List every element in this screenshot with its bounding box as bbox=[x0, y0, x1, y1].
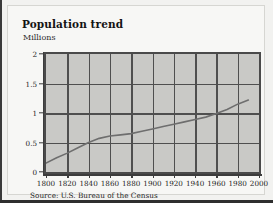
chart-card: Population trend Millions 00.511.52 1800… bbox=[7, 5, 265, 195]
bottom-edge-rule bbox=[0, 200, 273, 203]
x-axis-tick-label: 1880 bbox=[122, 179, 140, 188]
x-axis-tick-mark bbox=[131, 174, 132, 178]
y-axis-tick-label: 2 bbox=[32, 50, 37, 59]
y-axis-tick-label: 1 bbox=[32, 109, 37, 118]
population-line-series bbox=[46, 54, 259, 172]
x-axis-tick-label: 2000 bbox=[250, 179, 268, 188]
x-axis-tick-label: 1800 bbox=[37, 179, 55, 188]
x-axis-tick-mark bbox=[46, 174, 47, 178]
x-axis-tick-label: 1920 bbox=[165, 179, 183, 188]
chart-title: Population trend bbox=[22, 18, 123, 30]
x-axis-tick-mark bbox=[153, 174, 154, 178]
x-axis-tick-label: 1980 bbox=[229, 179, 247, 188]
y-axis-tick-label: 1.5 bbox=[26, 79, 37, 88]
x-axis-tick-mark bbox=[216, 174, 217, 178]
x-axis-tick-mark bbox=[174, 174, 175, 178]
plot-area bbox=[44, 52, 261, 174]
x-axis-tick-label: 1940 bbox=[186, 179, 204, 188]
x-axis-tick-mark bbox=[259, 174, 260, 178]
population-trend-figure: Population trend Millions 00.511.52 1800… bbox=[0, 0, 273, 203]
x-axis-tick-label: 1820 bbox=[58, 179, 76, 188]
y-axis-unit-label: Millions bbox=[23, 33, 56, 42]
y-axis-tick-label: 0.5 bbox=[26, 138, 37, 147]
x-axis-tick-mark bbox=[110, 174, 111, 178]
x-axis-tick-mark bbox=[195, 174, 196, 178]
x-axis-tick-mark bbox=[89, 174, 90, 178]
x-axis-tick-label: 1900 bbox=[143, 179, 161, 188]
x-axis-tick-label: 1840 bbox=[79, 179, 97, 188]
x-axis-tick-label: 1860 bbox=[101, 179, 119, 188]
left-edge-rule bbox=[0, 0, 2, 203]
x-axis-tick-mark bbox=[67, 174, 68, 178]
x-axis-tick-mark bbox=[238, 174, 239, 178]
x-axis-tick-label: 1960 bbox=[207, 179, 225, 188]
y-axis-tick-label: 0 bbox=[32, 168, 37, 177]
source-note: Source: U.S. Bureau of the Census bbox=[30, 191, 158, 200]
